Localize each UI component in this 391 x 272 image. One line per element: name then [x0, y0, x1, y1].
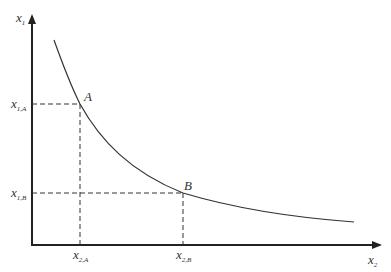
y-label-a: x1,A [10, 96, 27, 113]
x-label-b: x2,B [175, 247, 192, 264]
y-label-b: x1,B [10, 185, 27, 202]
y-axis-label: x1 [15, 10, 25, 27]
x-axis-label: x2 [367, 252, 378, 269]
point-a-label: A [83, 89, 92, 104]
point-b-label: B [184, 178, 192, 193]
indifference-curve [54, 40, 354, 222]
x-label-a: x2,A [72, 247, 89, 264]
diagram-canvas: x1 x2 A B x1,A x1,B x2,A x2,B [0, 0, 391, 272]
diagram-svg: x1 x2 A B x1,A x1,B x2,A x2,B [0, 0, 391, 272]
